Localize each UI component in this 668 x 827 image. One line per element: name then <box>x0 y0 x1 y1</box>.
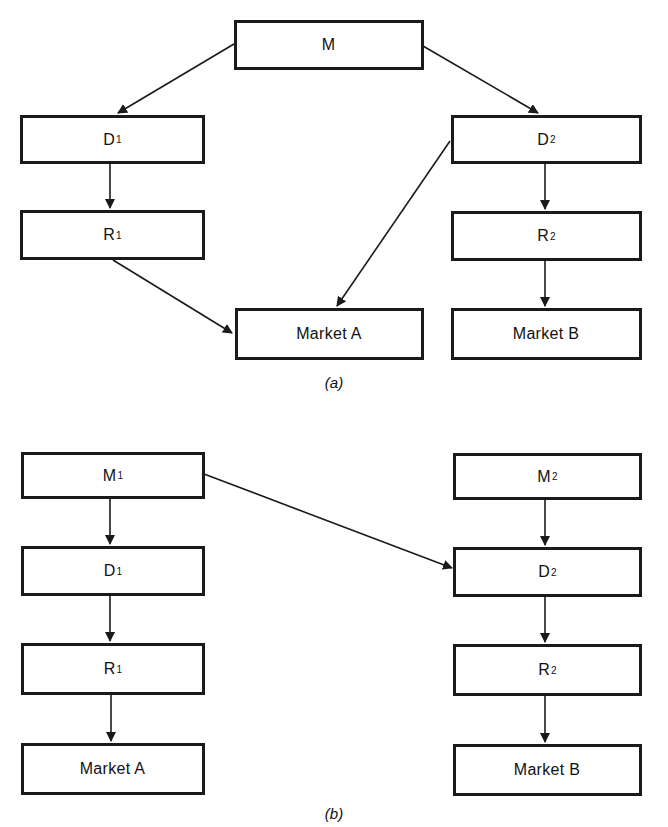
node-b-D2: D2 <box>453 547 642 597</box>
node-subscript: 2 <box>552 471 558 482</box>
node-label: D <box>537 131 549 149</box>
node-label: M <box>103 467 117 485</box>
edge-a-M-D1 <box>118 44 234 113</box>
node-b-M2: M2 <box>453 453 642 500</box>
node-label: M <box>322 36 336 54</box>
node-label: Market A <box>80 760 146 778</box>
node-label: D <box>103 131 115 149</box>
edge-a-D2-MarketA <box>337 141 450 306</box>
panel-a-caption: (a) <box>325 374 343 391</box>
node-b-market-a: Market A <box>21 743 205 795</box>
node-label: R <box>103 226 115 244</box>
node-a-market-b: Market B <box>451 308 642 360</box>
node-subscript: 1 <box>116 134 122 145</box>
node-a-D2: D2 <box>451 115 642 164</box>
node-label: Market B <box>513 325 579 343</box>
node-subscript: 2 <box>551 665 557 676</box>
node-b-R2: R2 <box>453 644 642 696</box>
edge-a-M-D2 <box>423 46 538 113</box>
node-label: R <box>104 660 116 678</box>
node-a-R1: R1 <box>20 210 205 260</box>
node-subscript: 2 <box>550 134 556 145</box>
node-subscript: 1 <box>116 230 122 241</box>
edge-b-M1-D2 <box>204 474 452 568</box>
panel-b-caption: (b) <box>325 805 343 822</box>
node-subscript: 1 <box>116 664 122 675</box>
edge-a-R1-MarketA <box>113 260 232 333</box>
node-subscript: 1 <box>116 566 122 577</box>
node-label: Market B <box>514 761 580 779</box>
node-label: M <box>537 468 551 486</box>
node-a-R2: R2 <box>451 211 642 261</box>
node-b-M1: M1 <box>21 452 205 499</box>
node-subscript: 2 <box>551 567 557 578</box>
node-b-R1: R1 <box>21 643 205 695</box>
node-b-D1: D1 <box>21 546 205 596</box>
node-a-D1: D1 <box>20 115 205 164</box>
node-label: Market A <box>296 325 362 343</box>
node-label: R <box>537 227 549 245</box>
node-a-M: M <box>234 20 424 70</box>
node-subscript: 1 <box>117 470 123 481</box>
node-b-market-b: Market B <box>453 744 642 796</box>
node-label: R <box>538 661 550 679</box>
node-subscript: 2 <box>550 231 556 242</box>
node-label: D <box>538 563 550 581</box>
node-label: D <box>104 562 116 580</box>
node-a-market-a: Market A <box>235 308 424 360</box>
